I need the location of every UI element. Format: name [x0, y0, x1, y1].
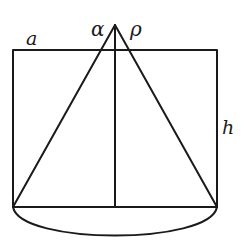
label-alpha: α	[91, 17, 105, 41]
cone-diagram: a α ρ h	[0, 0, 247, 250]
label-rho: ρ	[129, 17, 142, 41]
label-a: a	[26, 27, 37, 49]
label-h: h	[222, 116, 234, 138]
cone-left-slant	[13, 25, 115, 207]
base-ellipse-arc	[13, 207, 217, 236]
cone-right-slant	[115, 25, 217, 207]
